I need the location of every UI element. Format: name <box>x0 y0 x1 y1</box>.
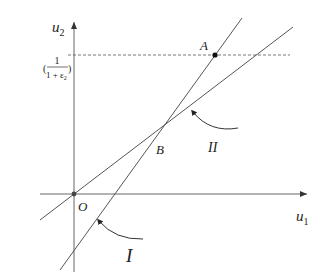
svg-text:1: 1 <box>55 55 60 66</box>
origin-label: O <box>78 199 88 214</box>
point-A-label: A <box>199 38 208 53</box>
line-II <box>40 27 293 220</box>
line-II-label: II <box>207 140 219 155</box>
point-A <box>212 52 217 57</box>
point-B-label: B <box>156 142 164 157</box>
pointer-arc-I <box>99 221 143 239</box>
svg-text:): ) <box>68 63 71 75</box>
y-tick-label: ( 1 1 + ε2 ) <box>43 55 71 81</box>
pointer-arc-II <box>193 112 238 129</box>
x-axis-label: u1 <box>296 208 309 227</box>
svg-text:1 + ε2: 1 + ε2 <box>46 70 67 81</box>
diagram-canvas: u2 u1 O ( 1 1 + ε2 ) A B II I <box>0 0 328 280</box>
origin-point <box>72 192 77 197</box>
line-I-label: I <box>125 245 134 266</box>
y-axis-label: u2 <box>52 19 65 38</box>
